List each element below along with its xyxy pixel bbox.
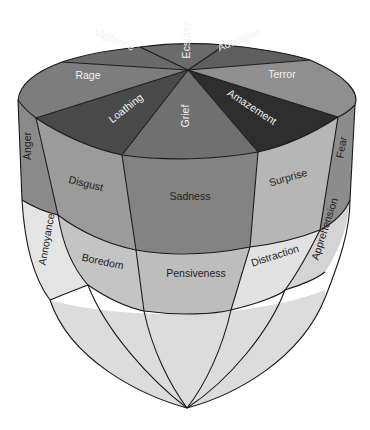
label-ecstasy: Ecstasy: [180, 21, 192, 59]
label-pensiveness: Pensiveness: [166, 267, 226, 279]
emotion-cone-diagram: Vigilance Ecstasy Adoration Rage Terror …: [0, 0, 370, 430]
label-vigilance: Vigilance: [93, 26, 137, 53]
label-anger: Anger: [21, 131, 33, 160]
band1-sadness: [122, 152, 258, 254]
label-rage: Rage: [75, 69, 100, 81]
label-terror: Terror: [268, 68, 296, 80]
label-sadness: Sadness: [170, 190, 211, 202]
label-grief: Grief: [179, 105, 191, 128]
